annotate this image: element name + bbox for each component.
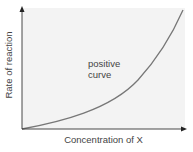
x-axis-label: Concentration of X — [22, 134, 185, 145]
y-axis-label: Rate of reaction — [0, 25, 16, 105]
y-axis-label-text: Rate of reaction — [3, 31, 14, 98]
annotation-line-2: curve — [88, 69, 120, 80]
curve-annotation: positive curve — [88, 58, 120, 80]
chart: Rate of reaction Concentration of X posi… — [0, 0, 193, 152]
annotation-line-1: positive — [88, 58, 120, 69]
